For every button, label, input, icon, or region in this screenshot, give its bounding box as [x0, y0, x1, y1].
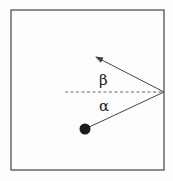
- boundary-box: [11, 10, 164, 170]
- alpha-label: α: [99, 97, 109, 115]
- incident-path: [85, 92, 164, 129]
- beta-label: β: [99, 71, 108, 89]
- reflection-diagram: β α: [0, 0, 173, 181]
- ball: [80, 124, 91, 135]
